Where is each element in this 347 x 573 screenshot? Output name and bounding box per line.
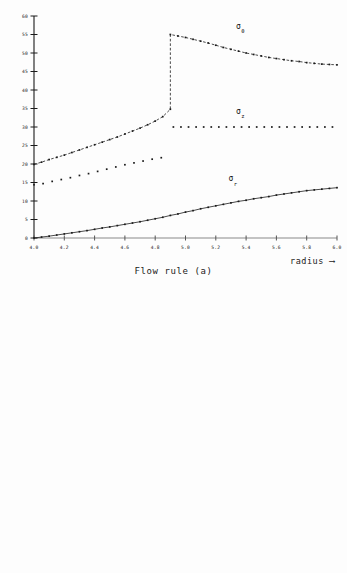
x-tick-label: 4.8 bbox=[151, 245, 160, 250]
data-point bbox=[109, 226, 111, 228]
data-point bbox=[147, 124, 149, 126]
data-point bbox=[313, 63, 315, 65]
x-tick-label: 4.2 bbox=[60, 245, 69, 250]
data-point bbox=[139, 221, 141, 223]
data-point bbox=[230, 48, 232, 50]
data-point bbox=[268, 57, 270, 59]
data-point bbox=[173, 126, 175, 128]
data-point bbox=[101, 141, 103, 143]
series-sigma_r: σr bbox=[33, 174, 338, 238]
figure-flow-rule-a: 0510152025303540455055604.04.24.44.64.85… bbox=[0, 0, 347, 286]
data-point bbox=[291, 60, 293, 62]
data-point bbox=[271, 126, 273, 128]
data-point bbox=[329, 64, 331, 66]
data-point bbox=[283, 193, 285, 195]
data-point bbox=[124, 133, 126, 135]
data-point bbox=[160, 157, 162, 159]
data-point bbox=[106, 168, 108, 170]
data-point bbox=[200, 208, 202, 210]
data-point bbox=[170, 108, 172, 110]
data-point bbox=[316, 126, 318, 128]
series-subscript-sigma_z: z bbox=[241, 113, 244, 119]
data-point bbox=[336, 64, 338, 66]
data-point bbox=[60, 179, 62, 181]
data-point bbox=[97, 171, 99, 173]
data-point bbox=[162, 116, 164, 118]
data-point bbox=[286, 126, 288, 128]
data-point bbox=[245, 52, 247, 54]
data-point bbox=[192, 38, 194, 40]
series-sigma_theta: σθ bbox=[33, 22, 338, 165]
data-point bbox=[63, 233, 65, 235]
x-axis-name: radius ⟶ bbox=[290, 256, 335, 266]
caption-flow-rule-a: Flow rule (a) bbox=[0, 266, 347, 276]
data-point bbox=[132, 222, 134, 224]
data-point bbox=[226, 126, 228, 128]
data-point bbox=[233, 126, 235, 128]
data-point bbox=[253, 198, 255, 200]
y-tick-label: 45 bbox=[22, 69, 28, 74]
data-point bbox=[33, 184, 35, 186]
data-point bbox=[321, 63, 323, 65]
y-tick-label: 15 bbox=[22, 180, 28, 185]
y-tick-label: 35 bbox=[22, 106, 28, 111]
y-tick-label: 0 bbox=[25, 236, 28, 241]
data-point bbox=[88, 173, 90, 175]
data-point bbox=[151, 158, 153, 160]
data-point bbox=[33, 237, 35, 239]
data-point bbox=[241, 126, 243, 128]
data-point bbox=[306, 62, 308, 64]
data-point bbox=[48, 159, 50, 161]
series-subscript-sigma_r: r bbox=[234, 181, 238, 187]
data-point bbox=[276, 58, 278, 60]
data-point bbox=[260, 55, 262, 57]
data-point bbox=[109, 139, 111, 141]
data-point bbox=[210, 126, 212, 128]
data-point bbox=[101, 227, 103, 229]
series-line bbox=[34, 35, 337, 165]
data-point bbox=[124, 164, 126, 166]
y-tick-label: 10 bbox=[22, 199, 28, 204]
y-tick-label: 30 bbox=[22, 125, 28, 130]
y-tick-label: 25 bbox=[22, 143, 28, 148]
data-point bbox=[245, 199, 247, 201]
data-point bbox=[188, 126, 190, 128]
x-tick-label: 5.0 bbox=[181, 245, 190, 250]
data-point bbox=[336, 187, 338, 189]
data-point bbox=[170, 215, 172, 217]
data-point bbox=[86, 230, 88, 232]
x-tick-label: 4.4 bbox=[90, 245, 99, 250]
data-point bbox=[180, 126, 182, 128]
data-point bbox=[260, 197, 262, 199]
data-point bbox=[94, 144, 96, 146]
data-point bbox=[142, 160, 144, 162]
data-point bbox=[162, 216, 164, 218]
data-point bbox=[177, 213, 179, 215]
data-point bbox=[48, 235, 50, 237]
data-point bbox=[133, 162, 135, 164]
series-label-sigma_theta: σ bbox=[236, 22, 241, 31]
data-point bbox=[177, 35, 179, 37]
y-tick-label: 5 bbox=[25, 217, 28, 222]
data-point bbox=[63, 154, 65, 156]
data-point bbox=[56, 156, 58, 158]
data-point bbox=[238, 50, 240, 52]
y-tick-label: 40 bbox=[22, 88, 28, 93]
data-point bbox=[283, 59, 285, 61]
data-point bbox=[218, 126, 220, 128]
data-point bbox=[203, 126, 205, 128]
data-point bbox=[154, 120, 156, 122]
data-point bbox=[71, 152, 73, 154]
y-tick-label: 50 bbox=[22, 51, 28, 56]
series-sigma_z_inner bbox=[33, 157, 162, 186]
y-tick-label: 60 bbox=[22, 14, 28, 19]
data-point bbox=[306, 190, 308, 192]
figure-flow-rule-b: 0510152025303540455055604.04.24.44.64.85… bbox=[0, 286, 347, 573]
data-point bbox=[291, 192, 293, 194]
series-label-sigma_z: σ bbox=[236, 107, 241, 116]
data-point bbox=[238, 201, 240, 203]
data-point bbox=[185, 211, 187, 213]
data-point bbox=[116, 136, 118, 138]
data-point bbox=[124, 223, 126, 225]
series-sigma_z: σz bbox=[173, 107, 334, 128]
